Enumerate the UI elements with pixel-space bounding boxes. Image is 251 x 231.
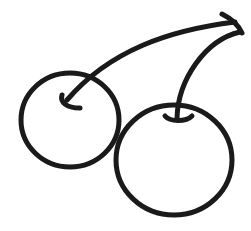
cherries-illustration: cherries [0, 0, 251, 231]
left-cherry [21, 73, 119, 167]
cherries-drawing [0, 0, 251, 231]
left-stem [67, 22, 235, 100]
